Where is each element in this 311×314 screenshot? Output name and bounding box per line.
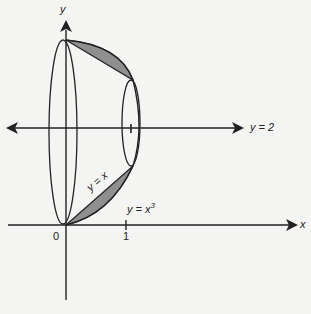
- shaded-region-top: [66, 40, 133, 80]
- cubic-label-text: y = x: [127, 203, 151, 215]
- x-axis-label: x: [300, 218, 306, 230]
- diagram-canvas: y x y = 2 y = x y = x3 0 1: [0, 0, 311, 314]
- right-ellipse: [122, 80, 140, 166]
- revolution-diagram: [0, 0, 311, 314]
- cubic-exponent: 3: [151, 201, 155, 210]
- origin-label: 0: [53, 230, 59, 242]
- cubic-curve-label: y = x3: [127, 201, 155, 215]
- rotation-axis-label: y = 2: [250, 121, 274, 133]
- left-ellipse: [49, 40, 77, 224]
- y-axis-label: y: [60, 3, 66, 15]
- x-one-label: 1: [123, 230, 129, 242]
